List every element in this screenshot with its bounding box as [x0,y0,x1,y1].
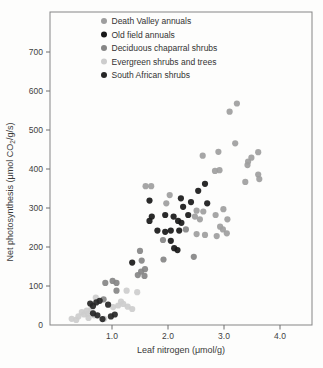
data-point-death-valley-annuals [234,100,240,106]
data-point-old-field-annuals [146,198,152,204]
data-point-old-field-annuals [202,181,208,187]
data-point-death-valley-annuals [224,216,230,222]
data-point-death-valley-annuals [244,162,250,168]
data-point-death-valley-annuals [227,109,233,115]
data-point-deciduous-chaparral-shrubs [102,280,108,286]
data-point-evergreen-shrubs-and-trees [134,289,140,295]
data-point-death-valley-annuals [194,208,200,214]
data-point-death-valley-annuals [197,216,203,222]
data-point-old-field-annuals [178,195,184,201]
x-tick-label: 3.0 [218,331,230,341]
data-point-death-valley-annuals [167,192,173,198]
data-point-old-field-annuals [168,228,174,234]
data-point-death-valley-annuals [200,208,206,214]
legend-label-old-field-annuals: Old field annuals [112,30,175,40]
data-point-death-valley-annuals [213,212,219,218]
data-point-death-valley-annuals [255,149,261,155]
data-point-old-field-annuals [129,260,135,266]
data-point-south-african-shrubs [99,316,105,322]
data-point-south-african-shrubs [112,311,118,317]
data-point-death-valley-annuals [212,168,218,174]
y-axis-label-post: /g/s) [5,123,15,141]
x-tick-label: 1.0 [106,331,118,341]
data-point-evergreen-shrubs-and-trees [124,288,130,294]
legend-marker-death-valley-annuals [101,18,107,24]
data-point-death-valley-annuals [214,233,220,239]
data-point-deciduous-chaparral-shrubs [160,256,166,262]
data-point-death-valley-annuals [163,200,169,206]
data-point-deciduous-chaparral-shrubs [139,258,145,264]
data-point-old-field-annuals [154,228,160,234]
data-point-death-valley-annuals [200,153,206,159]
y-tick-label: 500 [29,125,43,135]
data-point-evergreen-shrubs-and-trees [85,315,91,321]
data-point-death-valley-annuals [242,179,248,185]
data-point-deciduous-chaparral-shrubs [160,237,166,243]
legend-label-deciduous-chaparral-shrubs: Deciduous chaparral shrubs [112,43,218,53]
legend-label-south-african-shrubs: South African shrubs [112,70,190,80]
y-tick-label: 0 [38,320,43,330]
data-point-old-field-annuals [195,188,201,194]
data-point-deciduous-chaparral-shrubs [135,272,141,278]
legend-label-death-valley-annuals: Death Valley annuals [112,16,192,26]
data-points [69,100,263,323]
data-point-old-field-annuals [174,247,180,253]
data-point-south-african-shrubs [97,298,103,304]
data-point-deciduous-chaparral-shrubs [191,254,197,260]
y-tick-label: 600 [29,86,43,96]
data-point-death-valley-annuals [215,149,221,155]
data-point-south-african-shrubs [105,302,111,308]
data-point-death-valley-annuals [224,230,230,236]
data-point-death-valley-annuals [220,206,226,212]
data-point-death-valley-annuals [194,231,200,237]
legend-marker-south-african-shrubs [101,72,107,78]
legend: Death Valley annualsOld field annualsDec… [101,16,217,80]
data-point-death-valley-annuals [202,232,208,238]
data-point-evergreen-shrubs-and-trees [129,306,135,312]
legend-marker-deciduous-chaparral-shrubs [101,45,107,51]
data-point-death-valley-annuals [143,183,149,189]
data-point-old-field-annuals [171,214,177,220]
data-point-deciduous-chaparral-shrubs [183,226,189,232]
scatter-figure: 1.02.03.04.0 0100200300400500600700 Deat… [0,0,323,368]
data-point-death-valley-annuals [256,176,262,182]
y-axis-ticks: 0100200300400500600700 [29,47,50,330]
data-point-death-valley-annuals [148,183,154,189]
x-tick-label: 2.0 [162,331,174,341]
data-point-old-field-annuals [188,199,194,205]
x-axis-ticks: 1.02.03.04.0 [106,325,286,341]
y-axis-label-pre: Net photosynthesis (μmol CO [5,144,15,262]
data-point-old-field-annuals [204,200,210,206]
y-tick-label: 400 [29,164,43,174]
data-point-deciduous-chaparral-shrubs [141,273,147,279]
data-point-old-field-annuals [176,228,182,234]
data-point-old-field-annuals [168,238,174,244]
data-point-south-african-shrubs [94,312,100,318]
y-tick-label: 700 [29,47,43,57]
data-point-old-field-annuals [162,229,168,235]
data-point-old-field-annuals [180,204,186,210]
x-tick-label: 4.0 [274,331,286,341]
y-tick-label: 200 [29,242,43,252]
data-point-death-valley-annuals [232,140,238,146]
legend-marker-old-field-annuals [101,32,107,38]
data-point-old-field-annuals [162,212,168,218]
x-axis-label: Leaf nitrogen (μmol/g) [137,345,225,355]
data-point-deciduous-chaparral-shrubs [113,288,119,294]
y-axis-label: Net photosynthesis (μmol CO2/g/s) [5,123,16,262]
scatter-plot: 1.02.03.04.0 0100200300400500600700 Deat… [0,0,323,368]
y-tick-label: 300 [29,203,43,213]
data-point-old-field-annuals [178,220,184,226]
data-point-deciduous-chaparral-shrubs [113,280,119,286]
data-point-deciduous-chaparral-shrubs [137,248,143,254]
legend-marker-evergreen-shrubs-and-trees [101,59,107,65]
data-point-old-field-annuals [185,212,191,218]
legend-label-evergreen-shrubs-and-trees: Evergreen shrubs and trees [112,57,217,67]
y-tick-label: 100 [29,281,43,291]
data-point-old-field-annuals [146,218,152,224]
